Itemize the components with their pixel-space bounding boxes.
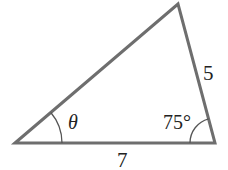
triangle-figure: θ 75° 5 7: [0, 0, 228, 170]
triangle-diagram: θ 75° 5 7: [0, 0, 228, 170]
theta-angle-arc: [51, 113, 62, 144]
right-angle-arc: [190, 119, 209, 143]
side-5-label: 5: [203, 61, 214, 85]
theta-label: θ: [68, 111, 78, 133]
side-7-label: 7: [117, 148, 128, 170]
angle-75-label: 75°: [163, 111, 191, 133]
